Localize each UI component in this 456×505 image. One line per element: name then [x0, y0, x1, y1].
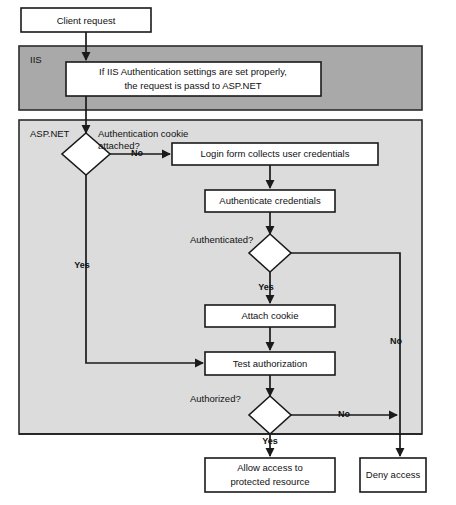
flowchart-canvas: IIS ASP.NET Client request	[0, 0, 456, 505]
edge-label-authorized-no: No	[338, 409, 350, 419]
node-allow-access-line1: Allow access to	[237, 462, 302, 473]
node-iis-auth-check-line1: If IIS Authentication settings are set p…	[99, 66, 287, 77]
node-authenticate-credentials-label: Authenticate credentials	[219, 195, 321, 206]
edge-label-cookie-no: No	[131, 148, 143, 158]
container-iis-label: IIS	[30, 54, 42, 65]
node-allow-access-line2: protected resource	[230, 476, 309, 487]
edge-label-cookie-yes: Yes	[74, 260, 90, 270]
node-attach-cookie-label: Attach cookie	[241, 310, 298, 321]
edge-label-authenticated-yes: Yes	[258, 282, 274, 292]
node-test-authorization-label: Test authorization	[233, 358, 307, 369]
node-authenticated-label: Authenticated?	[190, 234, 253, 245]
edge-label-authenticated-no: No	[390, 336, 402, 346]
node-authorized-label: Authorized?	[190, 393, 241, 404]
node-cookie-attached-line1: Authentication cookie	[98, 128, 188, 139]
node-iis-auth-check-line2: the request is passd to ASP.NET	[124, 80, 261, 91]
node-client-request-label: Client request	[57, 15, 116, 26]
node-login-form-label: Login form collects user credentials	[201, 148, 350, 159]
edge-label-authorized-yes: Yes	[262, 436, 278, 446]
flowchart-diagram: IIS ASP.NET Client request	[0, 0, 456, 505]
node-deny-access-label: Deny access	[366, 469, 421, 480]
container-aspnet-label: ASP.NET	[30, 128, 70, 139]
